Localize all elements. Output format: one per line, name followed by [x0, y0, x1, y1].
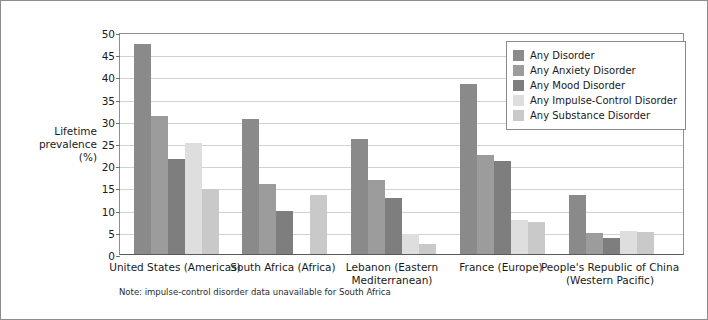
legend-swatch	[513, 110, 524, 121]
x-axis-category-label-line: Mediterranean)	[312, 274, 472, 287]
legend-item: Any Disorder	[513, 48, 677, 63]
chart-footnote: Note: impulse-control disorder data unav…	[119, 287, 391, 297]
y-axis-tick-label: 50	[102, 28, 115, 40]
bar-group	[242, 34, 327, 254]
y-axis-tick-label: 5	[108, 228, 115, 240]
bar	[276, 211, 293, 255]
bar-group	[134, 34, 219, 254]
y-axis-title-line-1: Lifetime	[19, 125, 97, 138]
y-axis-tick-label: 15	[102, 183, 115, 195]
bar	[603, 238, 620, 254]
legend-swatch	[513, 50, 524, 61]
y-axis-tick-label: 30	[102, 117, 115, 129]
y-axis-tick-mark	[116, 256, 120, 257]
bar	[494, 161, 511, 254]
chart-legend: Any DisorderAny Anxiety DisorderAny Mood…	[506, 41, 686, 130]
bar	[151, 116, 168, 254]
legend-label: Any Mood Disorder	[530, 80, 625, 91]
legend-label: Any Anxiety Disorder	[530, 65, 636, 76]
bar	[134, 44, 151, 254]
legend-item: Any Anxiety Disorder	[513, 63, 677, 78]
y-axis-tick-label: 10	[102, 206, 115, 218]
y-axis-tick-label: 20	[102, 161, 115, 173]
x-axis-category-label: People's Republic of China(Western Pacif…	[530, 261, 690, 287]
bar	[620, 231, 637, 254]
bar	[351, 139, 368, 254]
legend-item: Any Mood Disorder	[513, 78, 677, 93]
bar	[528, 222, 545, 254]
chart-figure: Lifetime prevalence (%) 0510152025303540…	[0, 0, 708, 320]
bar	[402, 234, 419, 254]
bar	[168, 159, 185, 254]
legend-label: Any Substance Disorder	[530, 110, 650, 121]
bar	[460, 84, 477, 254]
x-axis-category-label-line: People's Republic of China	[530, 261, 690, 274]
bar	[419, 244, 436, 254]
bar	[368, 180, 385, 254]
bar-group	[351, 34, 436, 254]
bar	[569, 195, 586, 254]
legend-label: Any Impulse-Control Disorder	[530, 95, 677, 106]
legend-swatch	[513, 80, 524, 91]
legend-swatch	[513, 65, 524, 76]
bar	[477, 155, 494, 254]
bar	[385, 198, 402, 254]
y-axis-tick-label: 45	[102, 50, 115, 62]
bar	[637, 232, 654, 254]
bar	[185, 143, 202, 254]
y-axis-title: Lifetime prevalence (%)	[19, 125, 97, 164]
y-axis-tick-label: 40	[102, 72, 115, 84]
legend-item: Any Impulse-Control Disorder	[513, 93, 677, 108]
y-axis-title-line-2: prevalence	[19, 138, 97, 151]
bar	[202, 189, 219, 254]
x-axis-category-label-line: (Western Pacific)	[530, 274, 690, 287]
legend-item: Any Substance Disorder	[513, 108, 677, 123]
bar	[242, 119, 259, 254]
bar	[511, 220, 528, 254]
legend-swatch	[513, 95, 524, 106]
bar	[259, 184, 276, 254]
y-axis-tick-label: 35	[102, 95, 115, 107]
bar	[310, 195, 327, 254]
legend-label: Any Disorder	[530, 50, 595, 61]
y-axis-tick-label: 25	[102, 139, 115, 151]
bar	[586, 233, 603, 254]
y-axis-title-line-3: (%)	[19, 151, 97, 164]
